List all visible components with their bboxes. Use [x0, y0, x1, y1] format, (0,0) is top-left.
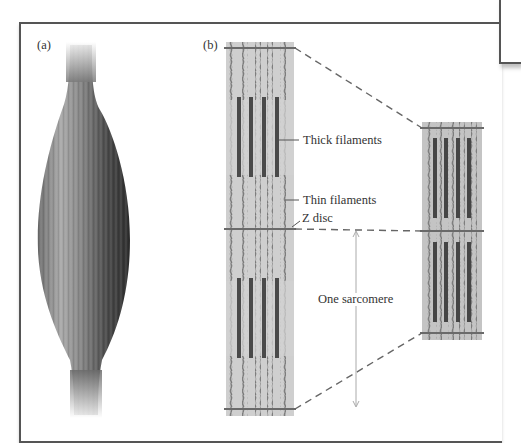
muscle-illustration [38, 42, 130, 418]
sarcomere-span-arrow [353, 231, 359, 407]
panel-a-label: (a) [37, 39, 51, 52]
myofibril-left-strip [224, 42, 296, 416]
thin-filaments-label: Thin filaments [303, 194, 376, 207]
one-sarcomere-label: One sarcomere [316, 293, 395, 306]
panel-b-label: (b) [203, 39, 218, 52]
z-disc-label: Z disc [302, 212, 333, 225]
thick-filaments-label: Thick filaments [303, 134, 382, 147]
myofibril-right-strip [420, 122, 484, 340]
zoom-connector-lines [295, 48, 422, 409]
